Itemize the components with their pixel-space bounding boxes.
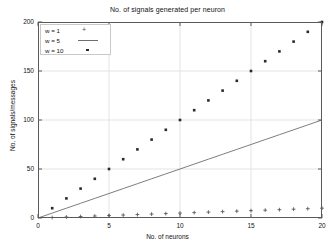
plus-marker-icon: + (76, 25, 104, 35)
x-tick-label: 5 (99, 222, 119, 229)
legend-label-w5: w = 5 (45, 37, 76, 44)
legend-label-w1: w = 1 (45, 27, 76, 34)
y-axis-label: No. of signals/messages (9, 61, 16, 171)
x-tick-label: 0 (28, 222, 48, 229)
chart-legend: w = 1 + w = 5 w = 10 (40, 24, 111, 55)
legend-item-w10: w = 10 (45, 45, 110, 55)
y-tick-label: 200 (8, 18, 34, 25)
dot-marker-icon (76, 45, 104, 55)
chart-container: No. of signals generated per neuron w = … (0, 0, 335, 251)
legend-label-w10: w = 10 (45, 47, 76, 54)
x-tick-label: 15 (241, 222, 261, 229)
legend-item-w5: w = 5 (45, 35, 110, 45)
x-tick-label: 20 (312, 222, 332, 229)
x-tick-label: 10 (170, 222, 190, 229)
y-tick-label: 0 (8, 214, 34, 221)
line-marker-icon (76, 35, 104, 45)
x-axis-label: No. of neurons (0, 233, 335, 240)
legend-item-w1: w = 1 + (45, 25, 110, 35)
